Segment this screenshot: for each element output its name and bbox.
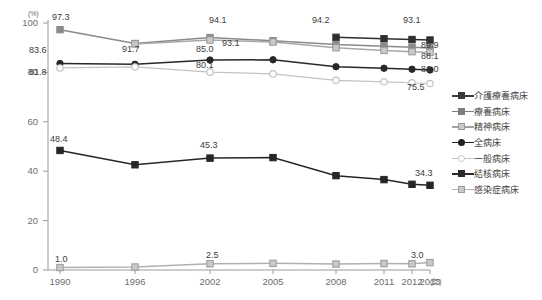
x-axis-tick-label: 1996 [113, 276, 157, 287]
data-point-marker [409, 261, 415, 267]
x-axis-tick-label: 2008 [314, 276, 358, 287]
data-point-marker [409, 36, 415, 42]
series-line [60, 67, 430, 84]
y-axis-tick-label: 40 [14, 165, 38, 176]
data-point-marker [427, 182, 433, 188]
data-point-marker [270, 260, 276, 266]
data-point-value-label: 93.1 [222, 38, 240, 48]
data-point-value-label: 81.8 [29, 67, 47, 77]
data-point-value-label: 88.1 [421, 51, 439, 61]
data-point-value-label: 94.2 [312, 15, 330, 25]
legend-item-label: 感染症病床 [474, 183, 520, 196]
legend-item-label: 全病床 [474, 136, 501, 149]
data-point-marker [333, 64, 339, 70]
data-point-marker [381, 65, 387, 71]
legend-item-2[interactable]: 精神病床 [452, 119, 542, 135]
data-point-marker [207, 155, 213, 161]
data-point-value-label: 83.6 [29, 45, 47, 55]
legend-marker-icon [452, 90, 474, 102]
data-point-marker [381, 47, 387, 53]
legend-item-label: 結核病床 [474, 167, 510, 180]
legend-item-6[interactable]: 感染症病床 [452, 182, 542, 198]
data-point-marker [409, 66, 415, 72]
data-point-marker [57, 264, 63, 270]
series-5 [57, 147, 433, 188]
data-point-value-label: 3.0 [411, 250, 424, 260]
x-axis-tick-label: 1990 [38, 276, 82, 287]
data-point-value-label: 2.5 [206, 250, 219, 260]
data-point-marker [132, 162, 138, 168]
data-point-marker [333, 261, 339, 267]
data-point-marker [381, 260, 387, 266]
legend-item-5[interactable]: 結核病床 [452, 166, 542, 182]
data-point-marker [270, 154, 276, 160]
legend-marker-icon [452, 152, 474, 164]
x-axis-tick-label: 2002 [188, 276, 232, 287]
legend-marker-icon [452, 121, 474, 133]
legend-item-label: 療養病床 [474, 105, 510, 118]
x-axis-tick-label: 2005 [251, 276, 295, 287]
legend-item-4[interactable]: 一般病床 [452, 150, 542, 166]
data-point-marker [207, 37, 213, 43]
legend-item-3[interactable]: 全病床 [452, 135, 542, 151]
data-point-value-label: 34.3 [415, 168, 433, 178]
data-point-marker [409, 48, 415, 54]
y-axis-tick-label: 0 [14, 264, 38, 275]
data-point-marker [381, 79, 387, 85]
y-axis-tick-label: 100 [14, 17, 38, 28]
data-point-marker [270, 71, 276, 77]
series-line [60, 150, 430, 185]
data-point-marker [427, 259, 433, 265]
data-point-marker [57, 147, 63, 153]
data-point-marker [270, 39, 276, 45]
legend-marker-icon [452, 183, 474, 195]
data-point-marker [333, 172, 339, 178]
legend-marker-icon [452, 168, 474, 180]
data-point-marker [333, 77, 339, 83]
data-point-value-label: 1.0 [55, 254, 68, 264]
series-6 [57, 259, 433, 270]
y-axis-tick-label: 20 [14, 215, 38, 226]
legend-item-1[interactable]: 療養病床 [452, 104, 542, 120]
data-point-value-label: 93.1 [403, 15, 421, 25]
series-3 [57, 57, 433, 74]
series-0 [333, 34, 433, 43]
data-point-value-label: 91.7 [122, 44, 140, 54]
data-point-value-label: 80.1 [196, 60, 214, 70]
data-point-marker [132, 64, 138, 70]
data-point-marker [333, 34, 339, 40]
data-point-value-label: 89.9 [421, 40, 439, 50]
legend-marker-icon [452, 105, 474, 117]
chart-container: (%) 100806040200 19901996200220052008201… [0, 0, 542, 300]
x-axis-unit-label: (年) [430, 276, 442, 286]
data-point-marker [427, 80, 433, 86]
legend-item-0[interactable]: 介護療養病床 [452, 88, 542, 104]
data-point-value-label: 94.1 [209, 15, 227, 25]
series-line [60, 60, 430, 70]
data-point-marker [333, 45, 339, 51]
legend-item-label: 介護療養病床 [474, 89, 529, 102]
y-axis-tick-label: 60 [14, 116, 38, 127]
data-point-value-label: 85.0 [196, 44, 214, 54]
data-point-marker [57, 26, 63, 32]
series-line [60, 263, 430, 268]
legend-item-label: 精神病床 [474, 120, 510, 133]
data-point-value-label: 97.3 [52, 12, 70, 22]
data-point-marker [409, 181, 415, 187]
legend-item-label: 一般病床 [474, 152, 510, 165]
legend-marker-icon [452, 137, 474, 149]
data-point-value-label: 45.3 [200, 140, 218, 150]
data-point-value-label: 81.0 [421, 64, 439, 74]
data-point-value-label: 48.4 [50, 134, 68, 144]
data-point-marker [381, 176, 387, 182]
data-point-marker [270, 57, 276, 63]
data-point-marker [381, 36, 387, 42]
data-point-marker [57, 65, 63, 71]
chart-legend: 介護療養病床療養病床精神病床全病床一般病床結核病床感染症病床 [452, 88, 542, 197]
data-point-value-label: 75.5 [407, 82, 425, 92]
data-point-marker [132, 264, 138, 270]
series-4 [57, 64, 433, 87]
data-point-marker [207, 261, 213, 267]
